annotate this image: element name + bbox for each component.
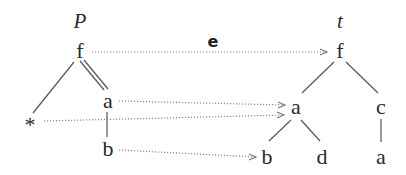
mapping-arrow-a-a <box>119 101 285 105</box>
tree-node-c: c <box>376 94 386 119</box>
tree-edge-f-a <box>302 62 334 93</box>
tree-node-b: b <box>262 144 273 169</box>
pattern-matching-diagram: P t e f a * b f a c b d a <box>0 0 406 175</box>
pattern-label: P <box>73 9 87 33</box>
pattern-node-root: f <box>76 38 84 63</box>
tree-node-c-child-a: a <box>376 144 386 169</box>
mapping-arrow-star-a <box>44 115 284 121</box>
tree-node-d: d <box>317 144 328 169</box>
tree-edge-f-c <box>346 62 378 93</box>
arrowhead-b-b <box>249 154 256 160</box>
pattern-edge-f-a-double-2 <box>84 60 108 89</box>
pattern-edge-f-star <box>33 62 74 113</box>
mapping-arrow-b-b <box>119 150 256 157</box>
tree-node-root: f <box>336 38 344 63</box>
tree-label: t <box>337 9 344 33</box>
mapping-label: e <box>208 32 219 51</box>
tree-node-a: a <box>291 94 301 119</box>
pattern-node-b: b <box>103 136 114 161</box>
tree-edge-a-b <box>269 120 291 141</box>
pattern-node-a: a <box>103 88 113 113</box>
pattern-edge-f-a-double-1 <box>80 61 104 90</box>
pattern-node-star: * <box>25 112 36 137</box>
tree-edge-a-d <box>301 120 320 141</box>
